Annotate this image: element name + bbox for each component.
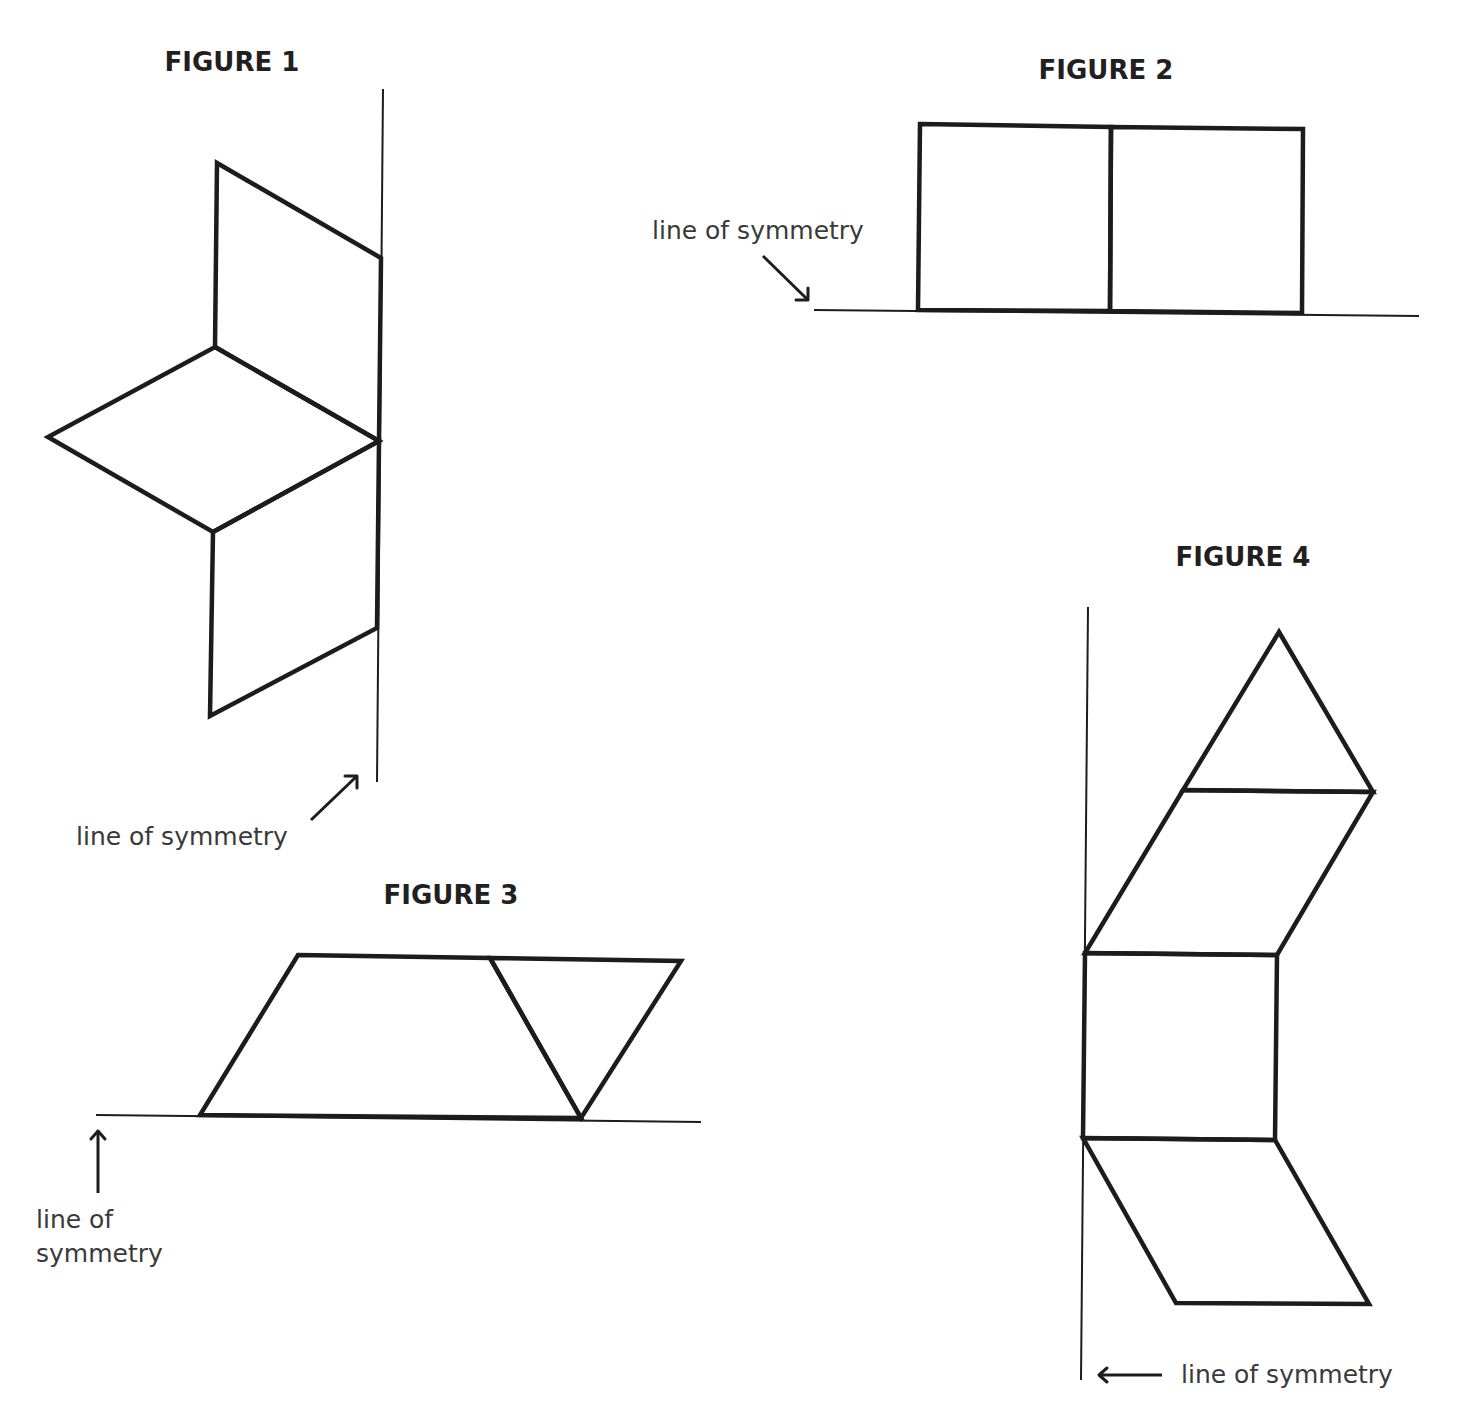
figure-3-title: FIGURE 3 xyxy=(384,880,519,910)
symmetry-worksheet: FIGURE 1 line of symmetry FIGURE 2 line … xyxy=(0,0,1458,1412)
figure-2-left-square xyxy=(918,124,1111,311)
figure-4-symmetry-label: line of symmetry xyxy=(1181,1360,1393,1389)
figure-1-upper-parallelogram xyxy=(215,163,381,441)
figure-4-arrow-icon xyxy=(1099,1368,1162,1382)
figure-1-title: FIGURE 1 xyxy=(165,47,300,77)
figure-4-square xyxy=(1083,953,1277,1140)
figure-4-lower-rhombus xyxy=(1083,1138,1369,1304)
figure-2-title: FIGURE 2 xyxy=(1039,55,1174,85)
figure-3-symmetry-label-line2: symmetry xyxy=(36,1239,163,1268)
figure-1-lower-parallelogram xyxy=(210,441,379,716)
figure-4-upper-rhombus xyxy=(1085,790,1373,955)
figure-2-right-square xyxy=(1110,127,1303,313)
figure-1-arrow-icon xyxy=(311,776,357,820)
figure-1-symmetry-label: line of symmetry xyxy=(76,822,288,851)
figure-2: FIGURE 2 line of symmetry xyxy=(652,55,1419,316)
figure-4-title: FIGURE 4 xyxy=(1176,542,1311,572)
figure-3-arrow-icon xyxy=(91,1131,105,1193)
figure-2-arrow-icon xyxy=(763,256,808,300)
figure-3-triangle xyxy=(490,958,681,1118)
figure-3-symmetry-label-line1: line of xyxy=(36,1205,114,1234)
figure-3-trapezoid xyxy=(200,955,581,1118)
figure-1-rhombus xyxy=(48,347,379,532)
figure-4-triangle xyxy=(1183,632,1373,792)
figure-1: FIGURE 1 line of symmetry xyxy=(48,47,383,851)
figure-4: FIGURE 4 line of symmetry xyxy=(1081,542,1393,1389)
figure-3: FIGURE 3 line of symmetry xyxy=(36,880,701,1268)
figure-2-symmetry-label: line of symmetry xyxy=(652,216,864,245)
